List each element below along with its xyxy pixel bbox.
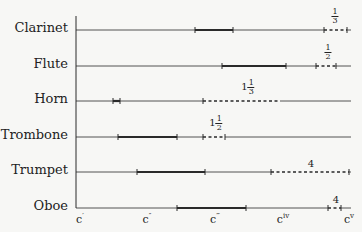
range-annotation: 113 — [241, 79, 254, 96]
x-tick-label: cv — [344, 212, 354, 226]
range-annotation: 112 — [209, 115, 222, 132]
x-tick-label: c′ — [76, 212, 84, 226]
annotation-fraction: 13 — [248, 79, 255, 96]
x-tick-label: civ — [277, 212, 289, 226]
instrument-label: Trumpet — [0, 162, 68, 177]
annotation-whole: 4 — [333, 194, 339, 205]
x-tick-label: c″ — [143, 212, 152, 226]
range-annotation: 13 — [331, 8, 338, 25]
instrument-label: Trombone — [0, 127, 68, 142]
annotation-whole: 4 — [308, 158, 314, 169]
instrument-label: Clarinet — [0, 20, 68, 35]
range-annotation: 4 — [333, 195, 339, 205]
annotation-fraction: 12 — [216, 115, 223, 132]
annotation-fraction: 12 — [324, 44, 331, 61]
instrument-label: Oboe — [0, 198, 68, 213]
instrument-label: Horn — [0, 91, 68, 106]
range-annotation: 4 — [308, 159, 314, 169]
annotation-fraction: 13 — [331, 8, 338, 25]
instrument-label: Flute — [0, 56, 68, 71]
x-tick-label: c‴ — [210, 212, 220, 226]
range-annotation: 12 — [324, 44, 331, 61]
